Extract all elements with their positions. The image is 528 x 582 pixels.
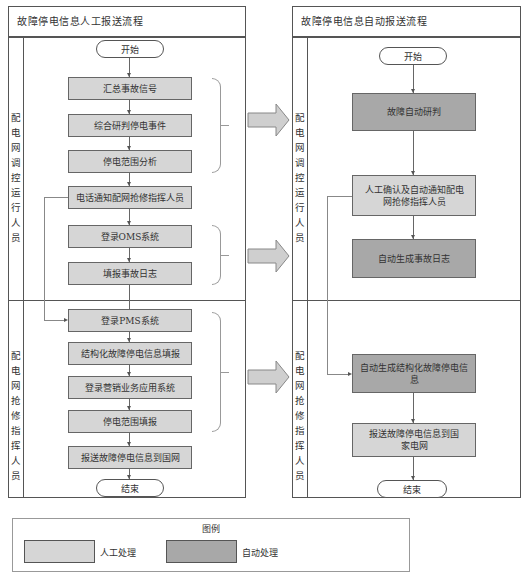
arrowhead	[127, 442, 131, 446]
lane-label-repair: 配电网抢修指挥人员	[293, 348, 307, 483]
arrowhead	[127, 146, 131, 150]
arrowhead	[411, 89, 415, 93]
arrowhead	[127, 258, 131, 262]
start-terminal: 开始	[379, 47, 447, 65]
step-auto-fault-analysis: 故障自动研判	[352, 93, 476, 131]
step-structured-info-fill: 结构化故障停电信息填报	[68, 342, 192, 365]
arrowhead	[411, 171, 415, 175]
arrowhead	[127, 372, 131, 376]
arrowhead	[411, 419, 415, 423]
connector-line	[44, 320, 64, 321]
connector-line	[44, 197, 45, 320]
arrowhead	[127, 73, 131, 77]
step-outage-range-fill: 停电范围填报	[68, 410, 192, 433]
arrowhead	[348, 372, 352, 376]
end-terminal: 结束	[96, 479, 164, 497]
legend-label-manual: 人工处理	[100, 546, 136, 559]
step-phone-notify: 电话通知配网抢修指挥人员	[68, 186, 192, 209]
arrowhead	[127, 338, 131, 342]
step-outage-range-analysis: 停电范围分析	[68, 150, 192, 173]
title-gap-row	[293, 37, 520, 38]
legend-label-auto: 自动处理	[242, 546, 278, 559]
connector-line	[44, 197, 68, 198]
step-confirm-and-auto-notify: 人工确认及自动通知配电网抢修指挥人员	[352, 175, 476, 216]
step-analyze-outage-event: 综合研判停电事件	[68, 114, 192, 137]
step-report-to-state-grid: 报送故障停电信息到国家电网	[352, 423, 476, 457]
transform-arrow-icon	[247, 239, 291, 273]
arrowhead	[64, 318, 68, 322]
legend-swatch-manual	[24, 540, 95, 563]
lane-label-dispatch: 配电网调控运行人员	[9, 110, 23, 245]
group-brace	[212, 225, 221, 285]
manual-process-title: 故障停电信息人工报送流程	[9, 7, 245, 37]
step-login-marketing-system: 登录营销业务应用系统	[68, 376, 192, 399]
connector-line	[327, 196, 328, 374]
transform-arrow-icon	[247, 360, 291, 394]
arrowhead	[127, 110, 131, 114]
arrowhead	[127, 182, 131, 186]
connector-line	[327, 196, 352, 197]
end-terminal: 结束	[377, 480, 447, 498]
arrowhead	[127, 221, 131, 225]
lane-label-dispatch: 配电网调控运行人员	[293, 110, 307, 245]
legend-swatch-auto	[166, 540, 237, 563]
arrowhead	[127, 475, 131, 479]
legend-title: 图例	[12, 522, 410, 535]
arrowhead	[411, 235, 415, 239]
lane-label-repair: 配电网抢修指挥人员	[9, 348, 23, 483]
title-gap-row	[9, 37, 245, 38]
arrowhead	[411, 476, 415, 480]
step-report-to-state-grid: 报送故障停电信息到国网	[68, 446, 192, 469]
group-brace	[212, 78, 221, 173]
auto-process-title: 故障停电信息自动报送流程	[293, 7, 520, 37]
connector-line	[327, 374, 348, 375]
group-brace-tick	[221, 255, 229, 256]
group-brace-tick	[221, 125, 229, 126]
step-auto-generate-log: 自动生成事故日志	[352, 239, 476, 278]
step-summarize-signals: 汇总事故信号	[68, 77, 192, 100]
start-terminal: 开始	[96, 40, 164, 58]
step-login-pms: 登录PMS系统	[68, 309, 192, 332]
arrowhead	[127, 406, 131, 410]
group-brace-tick	[221, 372, 229, 373]
step-auto-generate-structured-info: 自动生成结构化故障停电信息	[352, 354, 476, 393]
transform-arrow-icon	[247, 103, 291, 137]
step-login-oms: 登录OMS系统	[68, 225, 192, 248]
group-brace	[212, 312, 221, 432]
step-fill-incident-log: 填报事故日志	[68, 262, 192, 285]
